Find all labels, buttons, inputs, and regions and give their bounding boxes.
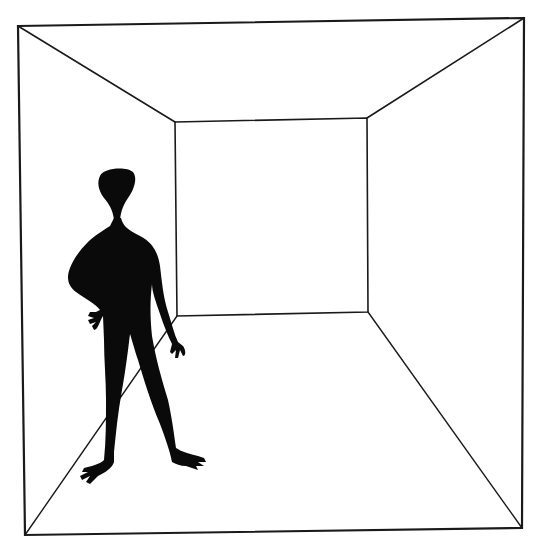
edge-bottom-right — [368, 312, 522, 528]
edge-top-left — [18, 26, 175, 122]
room-drawing — [0, 0, 537, 546]
edge-top-right — [367, 18, 524, 118]
back-wall — [175, 118, 368, 316]
illustration: Line drawing of an empty room in one-poi… — [0, 0, 537, 546]
figure-head — [98, 169, 135, 220]
silhouette-figure — [68, 169, 206, 484]
